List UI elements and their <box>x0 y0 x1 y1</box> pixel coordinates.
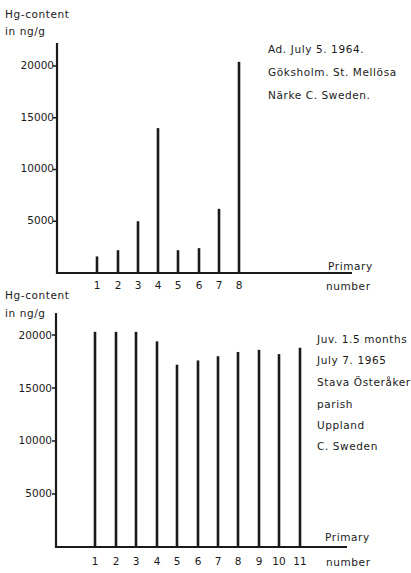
plot-area <box>0 0 410 573</box>
